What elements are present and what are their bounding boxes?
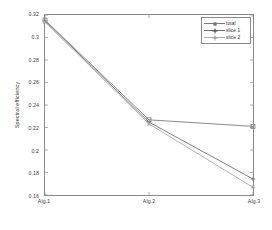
y-tick-label: 0.32 (29, 11, 40, 17)
legend-label-slice-2: slice 2 (226, 35, 240, 40)
legend-label-total: total (226, 21, 236, 26)
series-slice-2 (43, 20, 256, 190)
legend-item-total[interactable]: total (203, 20, 248, 27)
chart-figure: Spectral efficiency 0.160.180.20.220.240… (0, 0, 272, 230)
y-axis-tick-labels: 0.160.180.20.220.240.260.280.30.32 (0, 14, 42, 196)
x-tick-label: Alg.3 (248, 198, 260, 204)
plus-marker-icon (212, 28, 217, 33)
y-tick-label: 0.28 (29, 57, 40, 63)
y-tick-label: 0.22 (29, 125, 40, 131)
legend-item-slice-1[interactable]: slice 1 (203, 27, 248, 34)
x-tick-label: Alg.2 (143, 198, 155, 204)
y-tick-label: 0.18 (29, 170, 40, 176)
x-axis-tick-labels: Alg.1Alg.2Alg.3 (44, 198, 254, 212)
legend-sample-total (203, 20, 226, 27)
y-tick-label: 0.26 (29, 79, 40, 85)
legend-label-slice-1: slice 1 (226, 28, 240, 33)
chart-legend[interactable]: total slice 1 slice 2 (201, 17, 251, 44)
x-tick-label: Alg.1 (38, 198, 50, 204)
y-tick-label: 0.2 (31, 148, 39, 154)
legend-item-slice-2[interactable]: slice 2 (203, 34, 248, 41)
y-tick-label: 0.24 (29, 102, 40, 108)
legend-sample-slice-2 (203, 34, 226, 41)
square-marker-icon (213, 22, 216, 25)
star-marker-icon (212, 35, 217, 40)
legend-sample-slice-1 (203, 27, 226, 34)
y-tick-label: 0.3 (31, 34, 39, 40)
